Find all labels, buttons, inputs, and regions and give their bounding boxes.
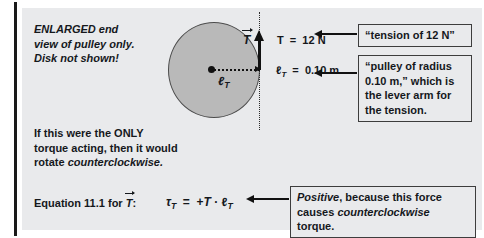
tension-arrow-head-icon bbox=[254, 30, 264, 41]
equation-force-symbol: T bbox=[204, 195, 211, 209]
only-torque-ccw-word: counterclockwise. bbox=[68, 156, 163, 168]
positive-callout-line-1: Positive, because this force bbox=[297, 191, 442, 203]
tension-symbol-glyph: T bbox=[243, 33, 250, 49]
positive-callout-ccw-word: counterclockwise bbox=[337, 206, 429, 218]
tension-callout-box: “tension of 12 N” bbox=[358, 24, 472, 47]
equation-dot-operator: · bbox=[211, 195, 222, 209]
tension-callout-connector-arrow bbox=[321, 33, 357, 35]
equation-label-prefix: Equation 11.1 for bbox=[34, 197, 126, 209]
enlarged-note-line-2: view of pulley only. bbox=[34, 38, 134, 50]
lever-arm-inner-label: ℓT bbox=[218, 74, 229, 92]
pulley-callout-line-3: the lever arm for bbox=[365, 89, 451, 101]
only-torque-line-1: If this were the ONLY bbox=[34, 127, 144, 139]
positive-callout-causes-word: causes bbox=[297, 206, 337, 218]
lever-arm-subscript: T bbox=[224, 80, 229, 90]
equation-arm-subscript: T bbox=[227, 201, 232, 211]
positive-callout-line-2: causes counterclockwise torque. bbox=[297, 206, 430, 233]
only-torque-note: If this were the ONLY torque acting, the… bbox=[34, 126, 178, 170]
lever-arm-value-number: = 0.10 m bbox=[286, 64, 339, 76]
page-left-rule bbox=[14, 2, 17, 236]
positive-callout-torque-word: torque. bbox=[297, 220, 334, 232]
positive-callout-connector-arrow bbox=[253, 198, 289, 200]
pulley-callout-line-4: the tension. bbox=[365, 104, 427, 116]
only-torque-line-3: rotate counterclockwise. bbox=[34, 156, 163, 168]
positive-word: Positive bbox=[297, 191, 339, 203]
pulley-callout-box: “pulley of radius 0.10 m,” which is the … bbox=[358, 55, 472, 122]
pulley-callout-connector-arrow bbox=[321, 72, 357, 74]
enlarged-view-note: ENLARGED end view of pulley only. Disk n… bbox=[34, 22, 134, 66]
equation-equals-plus: = + bbox=[176, 195, 203, 209]
only-torque-rotate-word: rotate bbox=[34, 156, 68, 168]
pulley-callout-line-2: 0.10 m,” which is bbox=[365, 75, 454, 87]
enlarged-note-line-3: Disk not shown! bbox=[34, 52, 119, 64]
equation-label-colon: : bbox=[132, 197, 136, 209]
enlarged-note-line-1: ENLARGED end bbox=[34, 23, 118, 35]
figure-root: ENLARGED end view of pulley only. Disk n… bbox=[0, 0, 484, 238]
positive-callout-box: Positive, because this force causes coun… bbox=[290, 186, 476, 238]
tension-vector-symbol: T bbox=[243, 33, 250, 49]
equation-label: Equation 11.1 for T: bbox=[34, 196, 136, 211]
equation-label-vector-symbol: T bbox=[126, 196, 133, 211]
pulley-callout-line-1: “pulley of radius bbox=[365, 60, 452, 72]
tension-arrow-shaft bbox=[258, 40, 261, 70]
only-torque-line-2: torque acting, then it would bbox=[34, 142, 178, 154]
lever-arm-dotted-line bbox=[214, 69, 260, 71]
torque-equation: τT = +T · ℓT bbox=[166, 195, 233, 213]
positive-callout-mid-text: , because this force bbox=[339, 191, 442, 203]
